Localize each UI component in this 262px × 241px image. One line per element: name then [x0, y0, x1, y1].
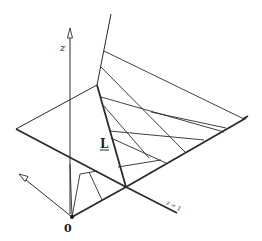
ruled-lines [101, 51, 244, 167]
line-z1-label: z = 1 [165, 199, 182, 212]
z-axis-label: z [59, 42, 66, 53]
line-L-upper [97, 14, 111, 85]
origin-label: 0 [64, 222, 72, 235]
plane-edge-left [16, 85, 97, 129]
origin-point [70, 215, 74, 219]
line-L-label: L [100, 137, 109, 151]
z-axis [68, 28, 73, 214]
plane-edge-front [16, 129, 126, 187]
diagram-3d-plane-figure: z L z = 1 0 [0, 0, 262, 241]
left-vector [19, 174, 72, 217]
z-axis-arrowhead-icon [68, 28, 73, 38]
plane-edge-origin [72, 187, 126, 217]
